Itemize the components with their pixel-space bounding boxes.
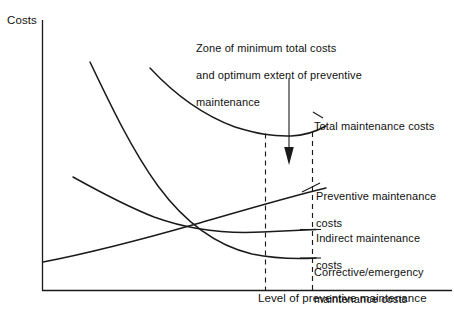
series-label-preventive-line-1: Preventive maintenance xyxy=(316,190,436,202)
zone-note-line-2: and optimum extent of preventive xyxy=(196,69,362,81)
series-label-indirect-line-1: Indirect maintenance xyxy=(316,232,420,244)
optimum-zone-annotation: Zone of minimum total costs and optimum … xyxy=(196,28,362,109)
annotation-arrow-head xyxy=(284,147,294,165)
curve-preventive-maintenance-costs xyxy=(43,188,326,262)
series-label-total-line-1: Total maintenance costs xyxy=(314,120,434,132)
y-axis-title: Costs xyxy=(7,14,37,28)
zone-note-line-1: Zone of minimum total costs xyxy=(196,42,336,54)
series-label-corrective-line-1: Corrective/emergency xyxy=(314,266,424,278)
cost-vs-preventive-maintenance-chart: Costs Level of preventive maintenance Zo… xyxy=(0,0,454,317)
series-label-corrective-emergency-maintenance-costs: Corrective/emergency maintenance costs xyxy=(314,252,424,306)
series-label-total-maintenance-costs: Total maintenance costs xyxy=(314,106,434,133)
zone-note-line-3: maintenance xyxy=(196,96,260,108)
series-label-corrective-line-2: maintenance costs xyxy=(314,293,407,305)
